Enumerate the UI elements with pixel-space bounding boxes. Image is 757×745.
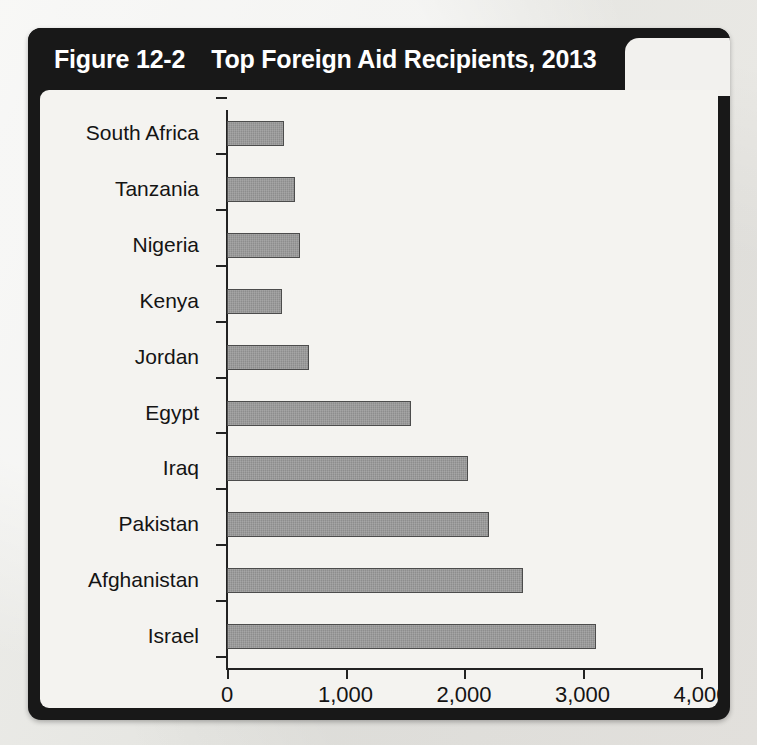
x-axis-tick xyxy=(346,668,348,679)
x-axis-tick-label: 1,000 xyxy=(291,682,401,708)
bar xyxy=(227,624,596,649)
bar xyxy=(227,233,300,258)
bar-category-label: Iraq xyxy=(40,456,199,480)
x-axis-tick xyxy=(464,668,466,679)
x-axis-tick xyxy=(701,668,703,679)
header-notch xyxy=(625,28,730,90)
x-axis-tick-label: 4,000 xyxy=(646,682,718,708)
bar xyxy=(227,512,489,537)
y-axis-tick xyxy=(216,656,227,658)
bar-category-label: Egypt xyxy=(40,401,199,425)
x-axis-tick-label: 2,000 xyxy=(409,682,519,708)
y-axis-tick xyxy=(216,209,227,211)
bar xyxy=(227,568,523,593)
bar-category-label: South Africa xyxy=(40,121,199,145)
y-axis-tick xyxy=(216,544,227,546)
y-axis-tick xyxy=(216,432,227,434)
bar-category-label: Pakistan xyxy=(40,512,199,536)
bar-category-label: Israel xyxy=(40,624,199,648)
bar xyxy=(227,345,309,370)
bar-category-label: Tanzania xyxy=(40,177,199,201)
x-axis-tick xyxy=(583,668,585,679)
y-axis-tick xyxy=(216,153,227,155)
y-axis-tick xyxy=(216,488,227,490)
y-axis-tick xyxy=(216,600,227,602)
bar-chart: South AfricaTanzaniaNigeriaKenyaJordanEg… xyxy=(40,90,718,708)
figure-title: Top Foreign Aid Recipients, 2013 xyxy=(211,45,596,74)
y-axis-tick xyxy=(216,265,227,267)
bar xyxy=(227,456,468,481)
figure-frame: Figure 12-2 Top Foreign Aid Recipients, … xyxy=(28,28,730,720)
bar-category-label: Kenya xyxy=(40,289,199,313)
bar xyxy=(227,401,411,426)
y-axis-tick xyxy=(216,97,227,99)
x-axis-tick-label: 0 xyxy=(172,682,282,708)
y-axis-tick xyxy=(216,321,227,323)
y-axis-tick xyxy=(216,377,227,379)
figure-header: Figure 12-2 Top Foreign Aid Recipients, … xyxy=(28,28,625,90)
plot-panel: South AfricaTanzaniaNigeriaKenyaJordanEg… xyxy=(40,90,718,708)
figure-number: Figure 12-2 xyxy=(54,45,185,74)
bar-category-label: Jordan xyxy=(40,345,199,369)
x-axis-tick xyxy=(227,668,229,679)
x-axis-tick-label: 3,000 xyxy=(528,682,638,708)
bar xyxy=(227,177,295,202)
bar xyxy=(227,289,282,314)
bar-category-label: Afghanistan xyxy=(40,568,199,592)
bar-category-label: Nigeria xyxy=(40,233,199,257)
bar xyxy=(227,121,284,146)
